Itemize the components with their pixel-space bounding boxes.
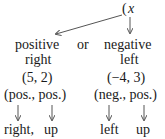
label-left: left xyxy=(120,53,139,67)
point-1: (5, 2) xyxy=(22,71,52,85)
variable-x: x xyxy=(128,2,134,16)
label-negative: negative xyxy=(104,38,151,52)
label-or: or xyxy=(77,38,89,52)
dir-x-1: right, xyxy=(4,123,34,137)
dir-y-1: up xyxy=(44,123,58,137)
open-paren: ( xyxy=(122,2,127,16)
point-2: (−4, 3) xyxy=(107,71,145,85)
dir-y-2: up xyxy=(136,123,150,137)
label-positive: positive xyxy=(15,38,59,52)
dir-x-2: left xyxy=(100,123,119,137)
arrow-to-positive xyxy=(56,15,122,34)
label-right: right xyxy=(25,53,51,67)
signs-2: (neg., pos.) xyxy=(94,88,157,102)
signs-1: (pos., pos.) xyxy=(4,88,66,102)
